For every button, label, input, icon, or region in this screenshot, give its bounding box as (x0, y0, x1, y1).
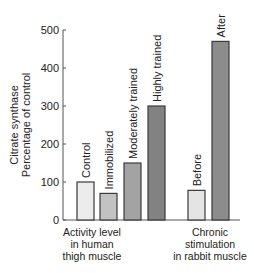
bar-label: Highly trained (151, 35, 163, 102)
bar-immobilized (100, 193, 117, 220)
y-tick-label: 100 (41, 176, 59, 188)
group-label-line: stimulation (155, 238, 254, 250)
group-label-human: Activity levelin humanthigh muscle (37, 226, 147, 262)
group-label-line: in rabbit muscle (155, 250, 254, 262)
y-tick-label: 500 (41, 24, 59, 36)
bar-moderately-trained (124, 163, 141, 220)
bar-control (77, 182, 94, 220)
y-tick-label: 200 (41, 138, 59, 150)
bar-before (188, 190, 205, 220)
bar-label: After (215, 14, 227, 38)
bars: ControlImmobilizedModerately trainedHigh… (77, 14, 229, 220)
group-label-line: in human (37, 238, 147, 250)
y-tick-label: 400 (41, 62, 59, 74)
bar-label: Moderately trained (127, 68, 139, 159)
bar-label: Control (80, 143, 92, 178)
bar-after (212, 41, 229, 220)
group-label-line: Activity level (37, 226, 147, 238)
bar-label: Before (191, 154, 203, 186)
group-label-line: thigh muscle (37, 250, 147, 262)
y-axis-label-line: Citrate synthase (8, 85, 20, 164)
y-tick-label: 300 (41, 100, 59, 112)
y-axis-label: Citrate synthasePercentage of control (8, 73, 32, 178)
y-tick-label: 0 (53, 214, 59, 226)
bar-highly-trained (148, 106, 165, 220)
group-label-rabbit: Chronicstimulationin rabbit muscle (155, 226, 254, 262)
bar-label: Immobilized (103, 131, 115, 190)
group-label-line: Chronic (155, 226, 254, 238)
y-axis-label-line: Percentage of control (20, 73, 32, 178)
